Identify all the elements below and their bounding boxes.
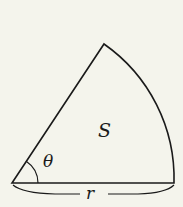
radius-brace-right xyxy=(108,185,174,194)
radius-brace-left xyxy=(13,185,80,194)
sector-diagram: S θ r xyxy=(0,0,183,207)
radius-label: r xyxy=(86,183,95,203)
angle-arc xyxy=(27,162,39,184)
area-label: S xyxy=(98,119,111,141)
sector-outline xyxy=(12,44,174,183)
angle-label: θ xyxy=(43,151,53,171)
